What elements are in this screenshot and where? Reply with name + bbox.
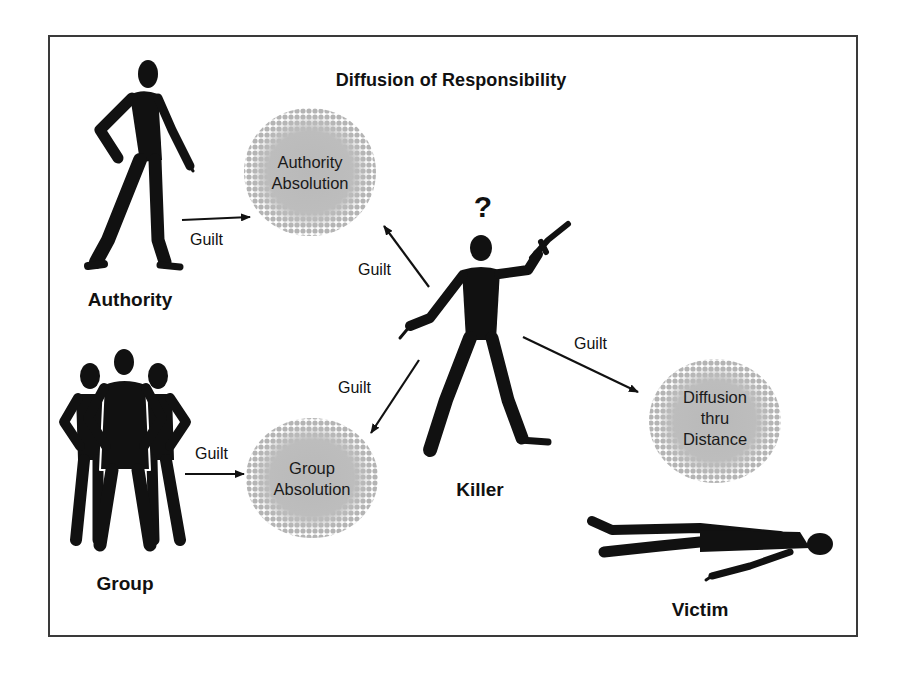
edge-label-guilt: Guilt [338,379,371,397]
bubble-line: Authority [250,152,370,173]
authority-figure-icon [88,60,193,267]
bubble-label-authority-absolution: Authority Absolution [250,152,370,194]
diagram-title: Diffusion of Responsibility [0,70,902,91]
bubble-label-group-absolution: Group Absolution [252,458,372,500]
group-figures-icon [64,348,186,545]
actor-label-group: Group [70,573,180,595]
edge-label-guilt: Guilt [358,261,391,279]
actor-label-victim: Victim [650,599,750,621]
actor-label-killer: Killer [430,479,530,501]
bubble-line: Diffusion [660,387,770,408]
edge-label-guilt: Guilt [190,231,223,249]
edge-label-guilt: Guilt [574,335,607,353]
edge-label-guilt: Guilt [195,445,228,463]
killer-figure-icon [400,224,568,450]
actor-label-authority: Authority [70,289,190,311]
bubble-line: thru [660,408,770,429]
arrow-authority-to-absolution [182,217,250,220]
bubble-line: Group [252,458,372,479]
bubble-line: Absolution [252,479,372,500]
victim-figure-icon [592,521,833,580]
bubble-line: Distance [660,429,770,450]
arrow-killer-to-group-absolution [371,360,419,433]
bubble-label-diffusion-distance: Diffusion thru Distance [660,387,770,450]
question-mark-icon: ? [468,190,498,224]
bubble-line: Absolution [250,173,370,194]
